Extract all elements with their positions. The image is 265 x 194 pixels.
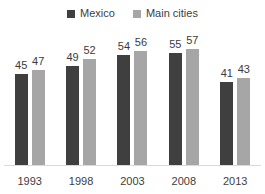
x-axis-label-1993: 1993 [12, 176, 48, 187]
legend-item-main-cities: Main cities [133, 8, 198, 19]
legend-swatch-icon [133, 10, 141, 18]
data-label: 55 [169, 39, 181, 50]
bar-col-main-cities-1993: 47 [32, 56, 45, 165]
data-label: 54 [118, 41, 130, 52]
legend-swatch-icon [67, 10, 75, 18]
bar-main-cities-2003 [134, 51, 147, 165]
bar-mexico-1998 [66, 66, 79, 165]
x-axis-label-1998: 1998 [63, 176, 99, 187]
legend-item-mexico: Mexico [67, 8, 115, 19]
bar-col-main-cities-2008: 57 [186, 35, 199, 165]
bar-mexico-1993 [15, 74, 28, 165]
x-axis-label-2003: 2003 [114, 176, 150, 187]
bar-main-cities-2013 [237, 78, 250, 165]
data-label: 45 [15, 60, 27, 71]
legend: MexicoMain cities [0, 8, 265, 19]
data-label: 47 [32, 56, 44, 67]
bar-col-mexico-2013: 41 [220, 68, 233, 165]
x-axis-label-2008: 2008 [166, 176, 202, 187]
bar-mexico-2013 [220, 82, 233, 165]
bar-col-mexico-2008: 55 [169, 39, 182, 165]
bar-col-main-cities-2013: 43 [237, 64, 250, 165]
bar-main-cities-2008 [186, 49, 199, 165]
bar-group-2003: 5456 [116, 37, 148, 165]
bar-chart: MexicoMain cities 45474952545655574143 1… [0, 0, 265, 194]
bar-col-mexico-2003: 54 [117, 41, 130, 165]
data-label: 56 [135, 37, 147, 48]
bar-group-2013: 4143 [219, 64, 251, 165]
bar-col-main-cities-2003: 56 [134, 37, 147, 165]
x-axis: 19931998200320082013 [4, 176, 261, 187]
bar-col-main-cities-1998: 52 [83, 45, 96, 165]
bar-col-mexico-1998: 49 [66, 52, 79, 165]
bar-group-1993: 4547 [14, 56, 46, 165]
bar-col-mexico-1993: 45 [15, 60, 28, 165]
data-label: 57 [186, 35, 198, 46]
data-label: 41 [221, 68, 233, 79]
bar-group-2008: 5557 [168, 35, 200, 165]
bar-main-cities-1998 [83, 59, 96, 165]
bar-mexico-2008 [169, 53, 182, 165]
bar-main-cities-1993 [32, 70, 45, 165]
data-label: 52 [83, 45, 95, 56]
bar-group-1998: 4952 [65, 45, 97, 165]
legend-label: Main cities [146, 8, 198, 19]
data-label: 49 [66, 52, 78, 63]
data-label: 43 [238, 64, 250, 75]
bar-mexico-2003 [117, 55, 130, 165]
x-axis-label-2013: 2013 [217, 176, 253, 187]
legend-label: Mexico [80, 8, 115, 19]
plot-area: 45474952545655574143 [4, 34, 261, 166]
